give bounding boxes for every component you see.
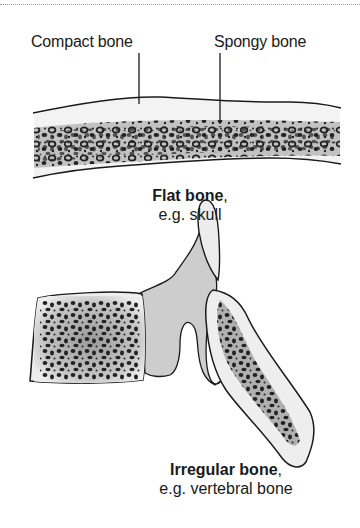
irregular-bone-illustration: [30, 200, 314, 467]
flat-bone-title: Flat bone: [152, 187, 223, 204]
bone-diagram: [0, 0, 360, 528]
irregular-bone-title: Irregular bone: [170, 461, 278, 478]
flat-bone-example: e.g. skull: [130, 205, 250, 224]
irregular-bone-example: e.g. vertebral bone: [146, 479, 306, 498]
label-spongy-bone: Spongy bone: [214, 33, 306, 51]
irregular-bone-comma: ,: [278, 461, 282, 478]
flat-bone-caption: Flat bone, e.g. skull: [130, 186, 250, 224]
irregular-bone-caption: Irregular bone, e.g. vertebral bone: [146, 460, 306, 498]
flat-bone-comma: ,: [223, 187, 227, 204]
flat-bone-illustration: [30, 53, 345, 180]
label-compact-bone: Compact bone: [31, 33, 133, 51]
